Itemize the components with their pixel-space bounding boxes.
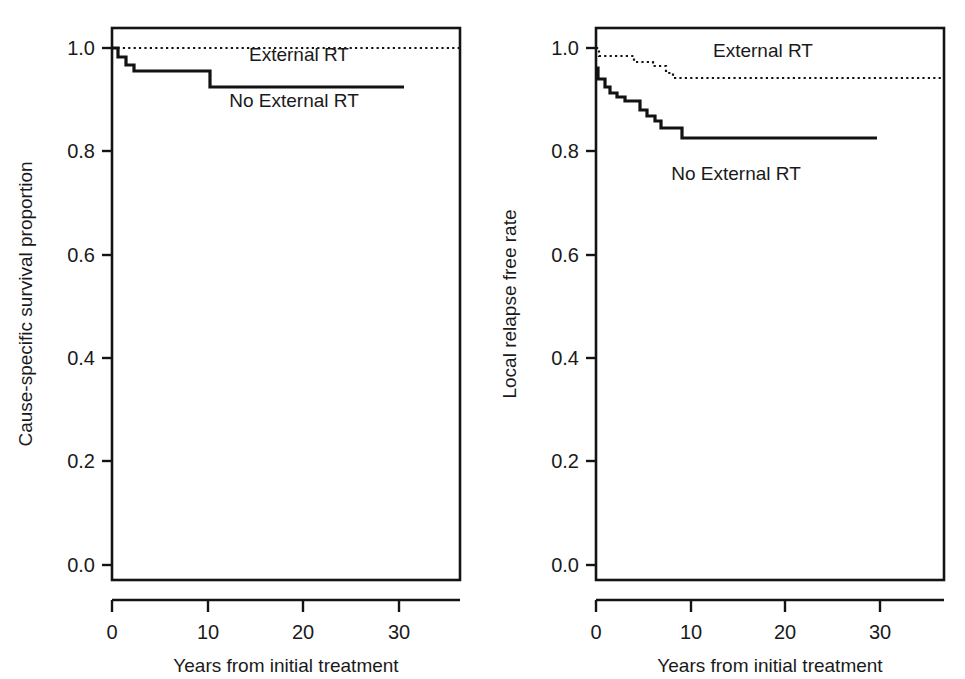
x-tick-label: 20 bbox=[292, 621, 314, 643]
y-tick-label: 0.2 bbox=[551, 450, 579, 472]
y-tick-label: 0.4 bbox=[551, 347, 579, 369]
y-tick-label: 0.6 bbox=[67, 244, 95, 266]
x-axis-ticks bbox=[596, 600, 880, 612]
y-tick-label: 0.0 bbox=[551, 554, 579, 576]
y-tick-label: 1.0 bbox=[551, 37, 579, 59]
y-axis-title: Local relapse free rate bbox=[499, 209, 520, 398]
y-tick-label: 0.8 bbox=[551, 140, 579, 162]
series-label-no-external-rt: No External RT bbox=[229, 90, 359, 111]
x-tick-label: 20 bbox=[774, 621, 796, 643]
series-label-external-rt: External RT bbox=[713, 40, 813, 61]
x-axis-tick-labels: 0 10 20 30 bbox=[106, 621, 410, 643]
x-axis-title: Years from initial treatment bbox=[173, 655, 399, 676]
y-axis-tick-labels: 1.0 0.8 0.6 0.4 0.2 0.0 bbox=[551, 37, 579, 576]
survival-curve-figure: 1.0 0.8 0.6 0.4 0.2 0.0 0 10 20 3 bbox=[0, 0, 965, 679]
x-axis-ticks bbox=[112, 600, 399, 612]
x-axis-tick-labels: 0 10 20 30 bbox=[590, 621, 891, 643]
y-tick-label: 0.2 bbox=[67, 450, 95, 472]
y-axis-tick-labels: 1.0 0.8 0.6 0.4 0.2 0.0 bbox=[67, 37, 95, 576]
series-label-external-rt: External RT bbox=[249, 44, 349, 65]
y-tick-label: 0.8 bbox=[67, 140, 95, 162]
series-label-no-external-rt: No External RT bbox=[671, 163, 801, 184]
y-tick-label: 1.0 bbox=[67, 37, 95, 59]
y-tick-label: 0.0 bbox=[67, 554, 95, 576]
x-tick-label: 30 bbox=[869, 621, 891, 643]
x-tick-label: 10 bbox=[197, 621, 219, 643]
y-tick-label: 0.6 bbox=[551, 244, 579, 266]
x-tick-label: 10 bbox=[680, 621, 702, 643]
y-axis-ticks bbox=[102, 48, 112, 565]
x-axis-title: Years from initial treatment bbox=[657, 655, 883, 676]
x-tick-label: 30 bbox=[388, 621, 410, 643]
y-tick-label: 0.4 bbox=[67, 347, 95, 369]
series-line-no-external-rt bbox=[596, 68, 877, 138]
chart-panel-cause-specific-survival: 1.0 0.8 0.6 0.4 0.2 0.0 0 10 20 3 bbox=[0, 0, 483, 679]
y-axis-title: Cause-specific survival proportion bbox=[15, 161, 36, 446]
chart-panel-local-relapse-free-rate: 1.0 0.8 0.6 0.4 0.2 0.0 0 10 20 3 bbox=[483, 0, 965, 679]
x-tick-label: 0 bbox=[590, 621, 601, 643]
y-axis-ticks bbox=[586, 48, 596, 565]
x-tick-label: 0 bbox=[106, 621, 117, 643]
